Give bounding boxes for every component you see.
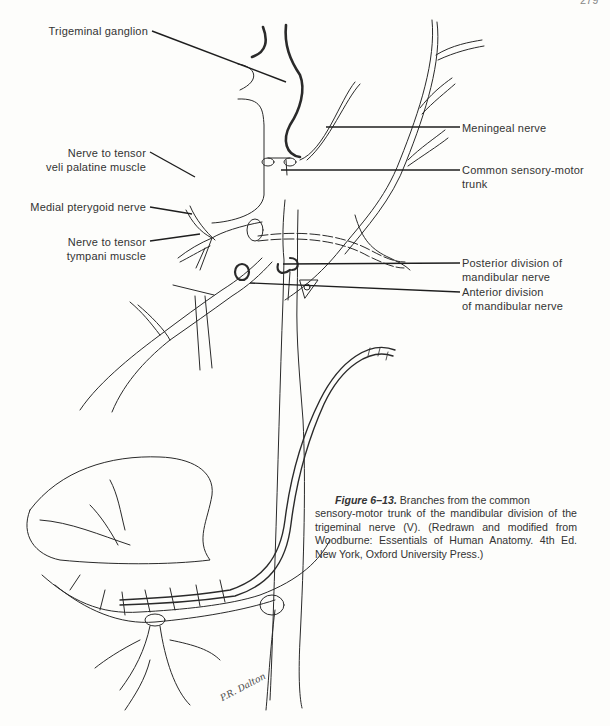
label-text: Common sensory-motor bbox=[462, 163, 584, 177]
label-text: Trigeminal ganglion bbox=[49, 25, 148, 37]
label-posterior-division: Posterior division of mandibular nerve bbox=[462, 256, 562, 284]
label-text: Nerve to tensor bbox=[14, 146, 146, 160]
label-meningeal-nerve: Meningeal nerve bbox=[462, 121, 546, 135]
label-trigeminal-ganglion: Trigeminal ganglion bbox=[44, 24, 148, 38]
label-text: Nerve to tensor bbox=[14, 235, 146, 249]
label-common-trunk: Common sensory-motor trunk bbox=[462, 163, 584, 191]
label-text: tympani muscle bbox=[14, 249, 146, 263]
figure-caption: Figure 6–13. Branches from the common se… bbox=[315, 494, 577, 561]
figure-label: Figure 6–13. bbox=[335, 494, 397, 506]
label-text: veli palatine muscle bbox=[14, 160, 146, 174]
caption-body: sensory-motor trunk of the mandibular di… bbox=[315, 507, 577, 559]
label-text: Medial pterygoid nerve bbox=[4, 200, 146, 214]
caption-text: Branches from the common bbox=[400, 494, 530, 506]
leader-lines bbox=[0, 0, 610, 726]
label-text: Anterior division bbox=[462, 285, 563, 299]
label-anterior-division: Anterior division of mandibular nerve bbox=[462, 285, 563, 313]
label-text: trunk bbox=[462, 177, 584, 191]
label-nerve-tensor-veli: Nerve to tensor veli palatine muscle bbox=[14, 146, 146, 174]
label-text: Meningeal nerve bbox=[462, 121, 546, 135]
label-nerve-tensor-tympani: Nerve to tensor tympani muscle bbox=[14, 235, 146, 263]
caption-first-line: Figure 6–13. Branches from the common bbox=[315, 494, 577, 507]
label-text: Posterior division of bbox=[462, 256, 562, 270]
label-medial-pterygoid: Medial pterygoid nerve bbox=[4, 200, 146, 214]
label-text: mandibular nerve bbox=[462, 270, 562, 284]
label-text: of mandibular nerve bbox=[462, 299, 563, 313]
